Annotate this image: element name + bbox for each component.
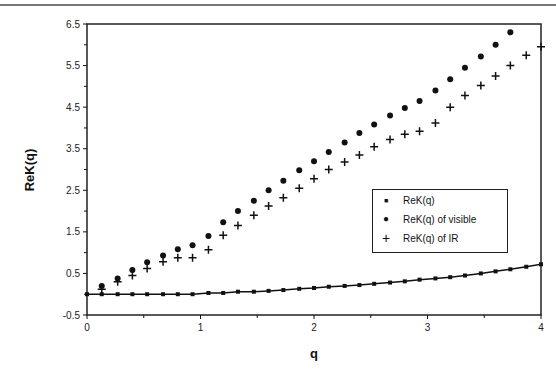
ir-marker xyxy=(310,175,318,183)
ir-marker xyxy=(325,166,333,174)
y-tick-label: 6.5 xyxy=(66,19,80,30)
plus-marker-icon: + xyxy=(379,230,393,246)
square-marker xyxy=(433,276,437,280)
ir-marker xyxy=(128,272,136,280)
ir-marker xyxy=(416,127,424,135)
visible-marker xyxy=(342,139,348,145)
x-tick-label: 3 xyxy=(425,322,431,333)
square-marker xyxy=(297,287,301,291)
visible-marker xyxy=(326,149,332,155)
square-marker xyxy=(161,292,165,296)
ir-marker xyxy=(219,231,227,239)
visible-marker xyxy=(432,88,438,94)
x-axis-label: q xyxy=(310,346,318,361)
ir-marker xyxy=(355,151,363,159)
visible-marker xyxy=(190,242,196,248)
y-tick-label: 1.5 xyxy=(66,226,80,237)
ir-marker xyxy=(159,258,167,266)
x-tick-label: 1 xyxy=(198,322,204,333)
square-marker xyxy=(418,278,422,282)
ir-marker xyxy=(461,92,469,100)
square-marker xyxy=(479,271,483,275)
ir-marker xyxy=(295,184,303,192)
visible-marker xyxy=(175,246,181,252)
y-tick-label: -0.5 xyxy=(63,310,81,321)
square-marker xyxy=(388,281,392,285)
ir-marker xyxy=(265,202,273,210)
legend: ■ ReK(q) ● ReK(q) of visible + ReK(q) of… xyxy=(372,189,508,253)
y-tick-label: 5.5 xyxy=(66,60,80,71)
square-marker xyxy=(372,282,376,286)
legend-label: ReK(q) xyxy=(403,195,435,206)
ir-marker xyxy=(279,194,287,202)
square-marker xyxy=(206,291,210,295)
ir-marker xyxy=(174,254,182,262)
ir-marker xyxy=(370,143,378,151)
square-marker xyxy=(281,288,285,292)
ir-marker xyxy=(341,158,349,166)
visible-marker xyxy=(371,122,377,128)
y-tick-label: 0.5 xyxy=(66,268,80,279)
square-marker xyxy=(524,265,528,269)
visible-marker xyxy=(235,208,241,214)
ir-marker xyxy=(401,130,409,138)
ir-marker xyxy=(234,222,242,230)
visible-marker xyxy=(311,158,317,164)
ir-marker xyxy=(189,254,197,262)
ir-marker xyxy=(250,211,258,219)
square-marker xyxy=(145,292,149,296)
square-marker xyxy=(327,285,331,289)
square-marker xyxy=(191,292,195,296)
legend-item-visible: ● ReK(q) of visible xyxy=(373,211,507,229)
visible-marker xyxy=(462,65,468,71)
ir-marker xyxy=(431,119,439,127)
y-tick-label: 4.5 xyxy=(66,102,80,113)
plot-frame xyxy=(87,24,541,315)
square-marker-icon: ■ xyxy=(379,197,393,204)
square-marker xyxy=(267,289,271,293)
square-marker xyxy=(130,292,134,296)
square-marker xyxy=(312,286,316,290)
ir-marker xyxy=(537,43,545,51)
legend-item-ir: + ReK(q) of IR xyxy=(373,230,507,248)
visible-marker xyxy=(280,178,286,184)
y-axis-label: ReK(q) xyxy=(22,149,37,192)
square-marker xyxy=(448,275,452,279)
visible-marker xyxy=(493,42,499,48)
square-marker xyxy=(116,292,120,296)
y-tick-label: 3.5 xyxy=(66,143,80,154)
ir-marker xyxy=(446,103,454,111)
ir-marker xyxy=(204,246,212,254)
ir-marker xyxy=(386,136,394,144)
ir-marker xyxy=(492,72,500,80)
square-marker xyxy=(463,274,467,278)
x-tick-label: 2 xyxy=(311,322,317,333)
ir-marker xyxy=(522,51,530,59)
ir-marker xyxy=(477,82,485,90)
visible-marker xyxy=(356,130,362,136)
visible-marker xyxy=(387,112,393,118)
visible-marker xyxy=(478,53,484,59)
ir-marker xyxy=(506,62,514,70)
visible-marker xyxy=(447,76,453,82)
y-tick-label: 2.5 xyxy=(66,185,80,196)
square-marker xyxy=(176,292,180,296)
visible-marker xyxy=(296,167,302,173)
visible-marker xyxy=(205,233,211,239)
square-marker xyxy=(403,279,407,283)
visible-marker xyxy=(144,259,150,265)
square-marker xyxy=(236,290,240,294)
visible-marker xyxy=(251,198,257,204)
legend-label: ReK(q) of IR xyxy=(403,233,459,244)
visible-marker xyxy=(266,187,272,193)
visible-marker xyxy=(160,253,166,259)
legend-label: ReK(q) of visible xyxy=(403,214,476,225)
square-marker xyxy=(508,267,512,271)
visible-marker xyxy=(402,105,408,111)
square-marker xyxy=(252,290,256,294)
circle-marker-icon: ● xyxy=(379,213,393,224)
visible-marker xyxy=(417,98,423,104)
square-marker xyxy=(343,284,347,288)
square-marker xyxy=(539,262,543,266)
visible-marker xyxy=(507,29,513,35)
